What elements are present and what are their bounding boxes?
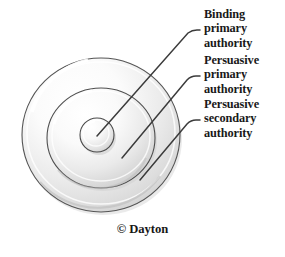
label-persuasive-primary-line-3: authority bbox=[204, 82, 259, 96]
label-persuasive-secondary-line-1: Persuasive bbox=[204, 97, 259, 111]
label-persuasive-primary-line-1: Persuasive bbox=[204, 53, 259, 67]
concentric-authority-diagram: Binding primary authority Persuasive pri… bbox=[0, 0, 285, 257]
label-persuasive-secondary-authority: Persuasive secondary authority bbox=[204, 97, 259, 140]
copyright-text: © Dayton bbox=[117, 222, 169, 236]
label-persuasive-secondary-line-3: authority bbox=[204, 126, 259, 140]
label-binding-line-2: primary bbox=[204, 21, 252, 35]
label-persuasive-primary-line-2: primary bbox=[204, 67, 259, 81]
label-binding-primary-authority: Binding primary authority bbox=[204, 7, 252, 50]
label-binding-line-1: Binding bbox=[204, 7, 252, 21]
label-binding-line-3: authority bbox=[204, 36, 252, 50]
label-persuasive-primary-authority: Persuasive primary authority bbox=[204, 53, 259, 96]
label-persuasive-secondary-line-2: secondary bbox=[204, 111, 259, 125]
figure-caption: © Dayton bbox=[0, 222, 285, 237]
